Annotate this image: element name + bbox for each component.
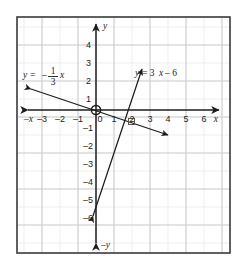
y-tick--1: –1 [83, 123, 93, 133]
y-axis-positive-label: y [102, 21, 108, 31]
x-axis-positive-label: x [213, 114, 219, 124]
y-tick-2: 2 [86, 76, 91, 86]
eq1-denominator: 3 [51, 77, 56, 87]
eq1-numerator: 1 [51, 66, 56, 76]
eq1-prefix: y = [22, 70, 36, 80]
origin-label: 0 [97, 114, 102, 124]
x-tick--2: –2 [55, 114, 65, 124]
y-tick-3: 3 [86, 58, 91, 68]
y-axis-negative-label: –y [100, 240, 111, 250]
y-tick--3: –3 [83, 159, 93, 169]
x-tick-6: 6 [201, 114, 206, 124]
y-tick--4: –4 [83, 177, 93, 187]
figure-background [0, 0, 248, 267]
eq1-sign: – [41, 70, 47, 80]
y-tick-1: 1 [86, 94, 91, 104]
x-axis-negative-label: –x [23, 114, 34, 124]
x-tick-1: 1 [111, 114, 116, 124]
x-tick-4: 4 [165, 114, 170, 124]
eq2-y: y [134, 68, 140, 78]
eq2-equals-three: = 3 [142, 68, 155, 78]
x-tick--3: –3 [37, 114, 47, 124]
y-tick--2: –2 [83, 141, 93, 151]
y-tick--6: –6 [83, 213, 93, 223]
x-tick-3: 3 [147, 114, 152, 124]
x-tick--1: –1 [73, 114, 83, 124]
eq1-variable: x [59, 70, 65, 80]
eq2-variable: x [158, 68, 164, 78]
coordinate-plane-figure: –3 –2 –1 1 2 3 4 5 6 0 4 3 2 1 –1 –2 –3 … [0, 0, 248, 267]
eq2-minus-six: – 6 [164, 68, 177, 78]
coordinate-plane-svg: –3 –2 –1 1 2 3 4 5 6 0 4 3 2 1 –1 –2 –3 … [0, 0, 248, 267]
y-tick-4: 4 [86, 40, 91, 50]
x-tick-2: 2 [129, 114, 134, 124]
x-tick-5: 5 [183, 114, 188, 124]
y-tick--5: –5 [83, 195, 93, 205]
